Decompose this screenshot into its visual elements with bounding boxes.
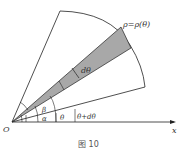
alpha-label: α	[42, 115, 47, 123]
beta-label: β	[41, 106, 46, 114]
theta-dtheta-arc	[50, 96, 56, 122]
theta-label: θ	[60, 114, 65, 122]
origin-label: O	[3, 125, 10, 134]
x-axis-arrow-icon	[170, 120, 176, 124]
theta-arc	[35, 106, 38, 122]
dtheta-label: dθ	[81, 66, 91, 75]
figure-caption: 图 10	[78, 140, 99, 149]
theta-dtheta-label: θ+dθ	[77, 113, 97, 121]
shaded-sector	[12, 27, 131, 122]
polar-area-diagram: ρ=ρ(θ) dθ β α θ θ+dθ O x 图 10	[0, 0, 183, 152]
curve-label: ρ=ρ(θ)	[122, 20, 150, 29]
x-axis-label: x	[172, 126, 177, 135]
